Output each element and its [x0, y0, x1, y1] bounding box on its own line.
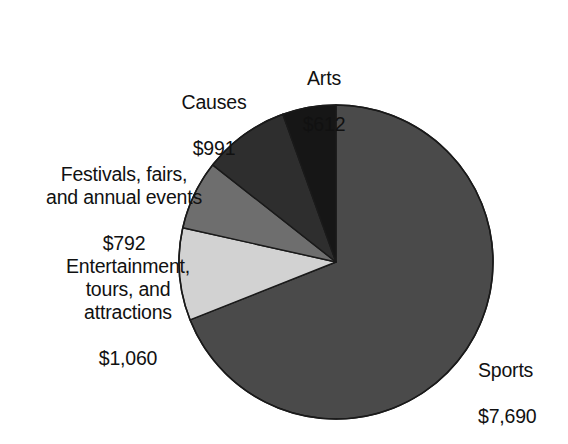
slice-label-entertainment: Entertainment, tours, and attractions $1… [30, 232, 226, 393]
slice-label-entertainment-name: Entertainment, tours, and attractions [30, 255, 226, 324]
slice-label-causes-name: Causes [158, 91, 270, 114]
slice-label-sports-name: Sports [478, 359, 568, 382]
slice-label-arts-name: Arts [269, 67, 379, 90]
slice-label-festivals-name: Festivals, fairs, and annual events [18, 163, 230, 209]
slice-label-sports-value: $7,690 [478, 405, 568, 428]
slice-label-arts: Arts $612 [269, 44, 379, 159]
slice-label-entertainment-value: $1,060 [30, 347, 226, 370]
slice-label-arts-value: $612 [269, 113, 379, 136]
pie-chart-figure: Arts $612 Causes $991 Festivals, fairs, … [0, 0, 568, 444]
slice-label-sports: Sports $7,690 [478, 336, 568, 444]
